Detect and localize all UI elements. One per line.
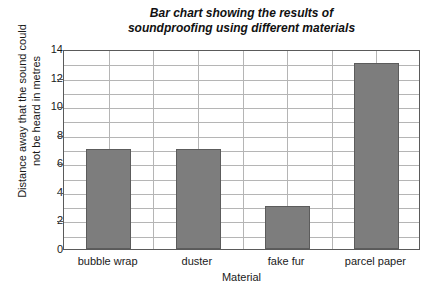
x-category-label: parcel paper — [331, 254, 420, 270]
x-axis-category-labels: bubble wrapdusterfake furparcel paper — [63, 254, 420, 270]
chart-title: Bar chart showing the results of soundpr… — [63, 6, 420, 36]
bar-fake-fur — [265, 206, 310, 249]
chart-page: { "chart_data": { "type": "bar", "title"… — [0, 0, 435, 292]
bar-duster — [176, 149, 221, 249]
x-category-label: duster — [152, 254, 241, 270]
bar-bubble-wrap — [86, 149, 131, 249]
plot-area — [63, 50, 420, 250]
y-tick-label: 14 — [29, 44, 63, 55]
y-tick-label: 0 — [29, 244, 63, 255]
x-category-label: fake fur — [242, 254, 331, 270]
bars-layer — [64, 51, 419, 249]
x-axis-title: Material — [63, 270, 420, 284]
x-category-label: bubble wrap — [63, 254, 152, 270]
bar-parcel-paper — [354, 63, 399, 249]
